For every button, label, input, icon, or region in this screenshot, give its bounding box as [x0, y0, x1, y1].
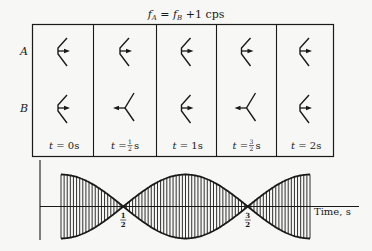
time-label-2: t = 1s [173, 140, 203, 151]
beats-diagram: fA = fB +1 cps A B t = 0st = 12st = 1st … [0, 0, 372, 251]
time-label-4: t = 2s [291, 140, 321, 151]
diagram-canvas: fA = fB +1 cps A B t = 0st = 12st = 1st … [0, 0, 372, 251]
time-label-1: t = 12s [111, 138, 139, 152]
svg-text:t =: t = [233, 140, 249, 151]
node-label-0: 12 [120, 211, 126, 229]
phase-vector-a-1 [120, 38, 132, 66]
svg-text:2: 2 [245, 220, 250, 229]
phase-vector-a-4 [300, 38, 312, 66]
time-label-0: t = 0s [49, 140, 79, 151]
svg-text:s: s [134, 140, 139, 151]
beat-waveform [61, 175, 310, 239]
time-label-3: t = 32s [233, 138, 261, 152]
time-labels: t = 0st = 12st = 1st = 32st = 2s [49, 138, 321, 152]
beat-waveform-plot: Time, s 1232 [40, 160, 359, 240]
svg-text:2: 2 [250, 145, 254, 152]
row-label-b: B [19, 102, 28, 115]
diagram-title: fA = fB +1 cps [147, 8, 225, 22]
svg-text:3: 3 [245, 211, 250, 220]
phase-vector-b-0 [58, 95, 70, 123]
phase-vector-b-3 [235, 93, 256, 121]
phase-vector-a-3 [242, 38, 254, 66]
svg-text:1: 1 [128, 138, 132, 145]
phase-vector-b-2 [182, 95, 194, 123]
svg-text:t =: t = [111, 140, 127, 151]
phase-vector-a-0 [58, 38, 70, 66]
svg-text:t = 0s: t = 0s [49, 140, 79, 151]
svg-text:2: 2 [128, 145, 132, 152]
node-label-1: 32 [245, 211, 251, 229]
svg-text:s: s [256, 140, 261, 151]
svg-text:3: 3 [250, 138, 254, 145]
row-label-a: A [19, 45, 28, 58]
svg-text:1: 1 [121, 211, 126, 220]
phase-grid-box [33, 25, 334, 157]
svg-text:2: 2 [121, 220, 126, 229]
svg-text:t = 2s: t = 2s [291, 140, 321, 151]
svg-text:t = 1s: t = 1s [173, 140, 203, 151]
phase-vectors [58, 38, 312, 123]
phase-vector-b-4 [300, 95, 312, 123]
phase-vector-a-2 [182, 38, 194, 66]
phase-vector-b-1 [113, 93, 134, 121]
x-axis-label: Time, s [314, 206, 351, 217]
